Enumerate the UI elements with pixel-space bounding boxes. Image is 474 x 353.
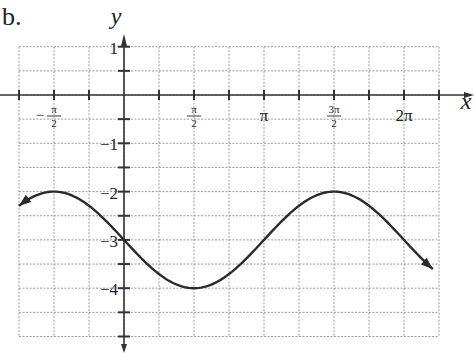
y-label-neg4: −4 bbox=[100, 280, 119, 299]
y-axis-arrow-icon bbox=[121, 34, 127, 46]
x-label-neg-half-pi-numerator: π bbox=[51, 103, 57, 115]
x-label-three-half-pi-numerator: 3π bbox=[328, 103, 340, 115]
y-axis-label: y bbox=[109, 3, 122, 29]
curve-left-arrow-icon bbox=[19, 195, 31, 206]
y-label-neg2: −2 bbox=[100, 184, 118, 203]
x-label-neg-half-pi-denominator: 2 bbox=[51, 117, 57, 129]
y-label-1: 1 bbox=[110, 39, 119, 58]
x-label-neg-half-pi-minus: − bbox=[36, 107, 44, 123]
x-label-pi: π bbox=[260, 106, 269, 125]
y-label-neg1: −1 bbox=[100, 135, 118, 154]
y-label-neg3: −3 bbox=[100, 232, 118, 251]
axes bbox=[0, 34, 474, 353]
x-label-three-half-pi-denominator: 2 bbox=[331, 117, 337, 129]
x-axis-label: x bbox=[460, 88, 472, 114]
x-label-two-pi: 2π bbox=[395, 106, 413, 125]
x-label-half-pi-denominator: 2 bbox=[191, 117, 197, 129]
tick-labels: yxπ2−π2π3π22π1−1−2−3−4 bbox=[36, 3, 472, 299]
graph: yxπ2−π2π3π22π1−1−2−3−4 bbox=[0, 0, 474, 353]
x-label-half-pi-numerator: π bbox=[191, 103, 197, 115]
y-axis-down-arrow-icon bbox=[121, 344, 127, 353]
